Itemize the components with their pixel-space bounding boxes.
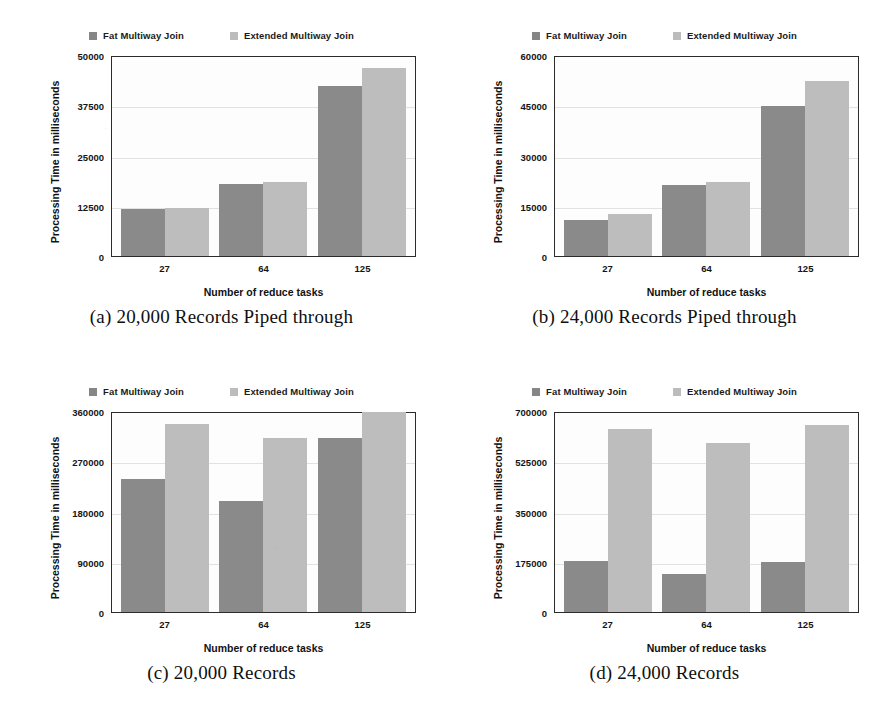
y-tick-label: 25000 bbox=[0, 151, 104, 162]
legend-entry-fat: Fat Multiway Join bbox=[532, 30, 627, 41]
y-tick-label: 360000 bbox=[0, 407, 104, 418]
x-axis-ticks: 2764125 bbox=[111, 619, 416, 630]
x-tick-label: 27 bbox=[558, 263, 657, 274]
bar-fat-multiway-join-125 bbox=[761, 562, 805, 612]
bar-extended-multiway-join-125 bbox=[805, 425, 849, 612]
x-axis-title: Number of reduce tasks bbox=[554, 642, 859, 654]
bar-group-125 bbox=[756, 413, 854, 612]
legend-entry-fat: Fat Multiway Join bbox=[532, 386, 627, 397]
y-tick-label: 175000 bbox=[443, 557, 547, 568]
x-tick-label: 27 bbox=[115, 263, 214, 274]
x-axis-title: Number of reduce tasks bbox=[111, 286, 416, 298]
y-tick-label: 270000 bbox=[0, 457, 104, 468]
x-tick-label: 27 bbox=[558, 619, 657, 630]
bar-extended-multiway-join-27 bbox=[608, 214, 652, 256]
bar-fat-multiway-join-27 bbox=[121, 479, 165, 612]
legend-label: Fat Multiway Join bbox=[546, 30, 627, 41]
bar-extended-multiway-join-125 bbox=[362, 412, 406, 612]
x-axis-ticks: 2764125 bbox=[554, 619, 859, 630]
x-axis-ticks: 2764125 bbox=[111, 263, 416, 274]
subfigure-caption-b: (b) 24,000 Records Piped through bbox=[443, 306, 886, 328]
y-tick-label: 90000 bbox=[0, 557, 104, 568]
bar-group-27 bbox=[559, 57, 657, 256]
bar-group-64 bbox=[657, 57, 755, 256]
chart-panel-a: Fat Multiway JoinExtended Multiway JoinP… bbox=[0, 0, 443, 356]
bar-container bbox=[112, 57, 415, 256]
legend-entry-fat: Fat Multiway Join bbox=[89, 30, 184, 41]
legend-label: Extended Multiway Join bbox=[687, 386, 797, 397]
bar-group-64 bbox=[214, 413, 312, 612]
chart-panel-d: Fat Multiway JoinExtended Multiway JoinP… bbox=[443, 356, 886, 712]
bar-extended-multiway-join-64 bbox=[263, 182, 307, 256]
legend-label: Fat Multiway Join bbox=[103, 30, 184, 41]
legend-swatch-dark-icon bbox=[532, 388, 540, 396]
subfigure-caption-d: (d) 24,000 Records bbox=[443, 662, 886, 684]
y-tick-label: 180000 bbox=[0, 507, 104, 518]
bar-fat-multiway-join-125 bbox=[318, 438, 362, 612]
chart-legend: Fat Multiway JoinExtended Multiway Join bbox=[0, 386, 443, 397]
x-axis-title: Number of reduce tasks bbox=[111, 642, 416, 654]
bar-fat-multiway-join-64 bbox=[662, 185, 706, 256]
bar-group-64 bbox=[214, 57, 312, 256]
legend-entry-extended: Extended Multiway Join bbox=[673, 386, 797, 397]
legend-entry-extended: Extended Multiway Join bbox=[230, 30, 354, 41]
chart-legend: Fat Multiway JoinExtended Multiway Join bbox=[443, 30, 886, 41]
plot-area bbox=[111, 56, 416, 257]
bar-fat-multiway-join-64 bbox=[219, 501, 263, 612]
legend-swatch-dark-icon bbox=[89, 32, 97, 40]
y-tick-label: 15000 bbox=[443, 201, 547, 212]
y-tick-label: 350000 bbox=[443, 507, 547, 518]
bar-group-125 bbox=[313, 413, 411, 612]
legend-swatch-light-icon bbox=[230, 388, 238, 396]
legend-swatch-dark-icon bbox=[89, 388, 97, 396]
bar-fat-multiway-join-64 bbox=[662, 574, 706, 612]
legend-swatch-light-icon bbox=[673, 32, 681, 40]
bar-extended-multiway-join-64 bbox=[706, 443, 750, 612]
subfigure-caption-c: (c) 20,000 Records bbox=[0, 662, 443, 684]
bar-fat-multiway-join-125 bbox=[318, 86, 362, 256]
legend-swatch-light-icon bbox=[230, 32, 238, 40]
y-tick-label: 700000 bbox=[443, 407, 547, 418]
y-tick-label: 0 bbox=[443, 608, 547, 619]
bar-fat-multiway-join-27 bbox=[564, 561, 608, 612]
legend-entry-fat: Fat Multiway Join bbox=[89, 386, 184, 397]
x-tick-label: 27 bbox=[115, 619, 214, 630]
x-tick-label: 125 bbox=[313, 263, 412, 274]
bar-extended-multiway-join-27 bbox=[165, 424, 209, 612]
legend-entry-extended: Extended Multiway Join bbox=[673, 30, 797, 41]
x-tick-label: 125 bbox=[756, 263, 855, 274]
bar-group-125 bbox=[313, 57, 411, 256]
bar-extended-multiway-join-27 bbox=[608, 429, 652, 612]
x-tick-label: 125 bbox=[313, 619, 412, 630]
legend-swatch-dark-icon bbox=[532, 32, 540, 40]
bar-container bbox=[112, 413, 415, 612]
chart-panel-b: Fat Multiway JoinExtended Multiway JoinP… bbox=[443, 0, 886, 356]
legend-label: Extended Multiway Join bbox=[244, 386, 354, 397]
bar-group-27 bbox=[559, 413, 657, 612]
legend-entry-extended: Extended Multiway Join bbox=[230, 386, 354, 397]
legend-label: Extended Multiway Join bbox=[687, 30, 797, 41]
x-tick-label: 64 bbox=[657, 263, 756, 274]
x-axis-ticks: 2764125 bbox=[554, 263, 859, 274]
bar-extended-multiway-join-64 bbox=[263, 438, 307, 612]
plot-area bbox=[554, 56, 859, 257]
bar-group-125 bbox=[756, 57, 854, 256]
y-tick-label: 50000 bbox=[0, 51, 104, 62]
figure-grid: Fat Multiway JoinExtended Multiway JoinP… bbox=[0, 0, 886, 712]
plot-area bbox=[111, 412, 416, 613]
y-tick-label: 0 bbox=[0, 252, 104, 263]
bar-fat-multiway-join-27 bbox=[121, 209, 165, 256]
bar-extended-multiway-join-125 bbox=[805, 81, 849, 256]
legend-label: Fat Multiway Join bbox=[103, 386, 184, 397]
subfigure-caption-a: (a) 20,000 Records Piped through bbox=[0, 306, 443, 328]
chart-legend: Fat Multiway JoinExtended Multiway Join bbox=[0, 30, 443, 41]
x-axis-title: Number of reduce tasks bbox=[554, 286, 859, 298]
bar-container bbox=[555, 413, 858, 612]
bar-extended-multiway-join-125 bbox=[362, 68, 406, 256]
x-tick-label: 125 bbox=[756, 619, 855, 630]
y-tick-label: 0 bbox=[443, 252, 547, 263]
bar-group-64 bbox=[657, 413, 755, 612]
legend-label: Fat Multiway Join bbox=[546, 386, 627, 397]
x-tick-label: 64 bbox=[657, 619, 756, 630]
y-tick-label: 37500 bbox=[0, 101, 104, 112]
